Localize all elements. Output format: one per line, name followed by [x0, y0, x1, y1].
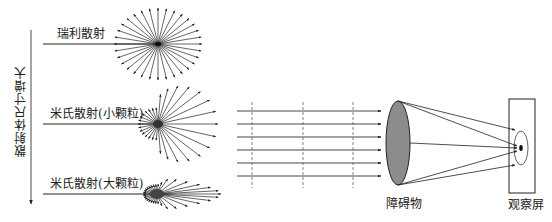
obstacle-disk [386, 101, 410, 185]
mie-small-label: 米氏散射(小颗粒) [50, 107, 143, 121]
parallel-beam [237, 111, 381, 176]
rayleigh-label: 瑞利散射 [57, 27, 105, 41]
mie-large-label: 米氏散射(大颗粒) [50, 177, 143, 191]
scattered-ray [158, 100, 210, 124]
scattered-ray [157, 194, 218, 197]
wavefront-dashes [252, 102, 353, 188]
scattered-ray [127, 19, 158, 45]
mie-large-particle [150, 189, 164, 199]
poisson-spot [519, 145, 523, 151]
scattered-ray [158, 86, 178, 124]
scattered-ray [158, 124, 178, 162]
diffraction-rays [398, 101, 517, 185]
scattered-ray [157, 191, 218, 194]
obstacle-label: 障碍物 [386, 197, 422, 211]
scattered-ray [158, 44, 189, 70]
mie-small-particle [153, 120, 163, 128]
scattered-ray [127, 44, 158, 70]
scattered-ray [158, 124, 210, 148]
screen-label: 观察屏 [508, 198, 544, 212]
scattered-ray [158, 19, 189, 45]
size-axis-label: 散射体尺寸增大 [14, 66, 28, 157]
rayleigh-particle [155, 42, 161, 46]
scattering-diagram: 散射体尺寸增大 瑞利散射 米氏散射(小颗粒) 米氏散射(大颗粒) 障碍物 观察屏 [0, 0, 552, 222]
mie-small-scattering-pattern [138, 86, 218, 162]
